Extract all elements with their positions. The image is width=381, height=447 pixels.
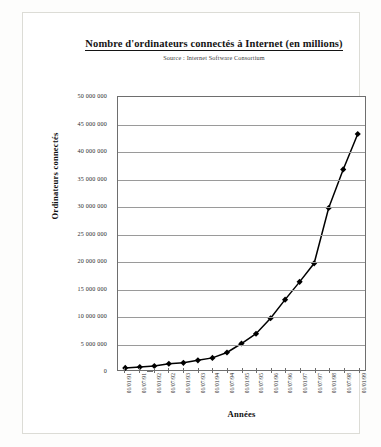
x-axis-title: Années [117,409,366,419]
y-tick-mark [147,371,153,372]
y-tick-label: 10 000 000 [78,313,107,319]
y-tick-label: 5 000 000 [81,341,107,347]
x-tick-label: 01/07/94 [229,373,235,393]
x-tick-label: 01/07/95 [258,373,264,393]
x-tick-label: 01/07/93 [200,373,206,393]
data-point-marker [195,357,201,363]
x-tick-label: 01/01/96 [273,373,279,393]
x-tick-mark [154,368,155,373]
x-tick-label: 01/01/91 [126,373,132,393]
gridline [118,235,365,236]
gridline [118,207,365,208]
scanned-page: Nombre d'ordinateurs connectés à Interne… [0,0,381,447]
y-tick-label: 50 000 000 [78,93,107,99]
x-tick-label: 01/01/95 [244,373,250,393]
data-point-marker [340,166,346,172]
y-tick-label: 15 000 000 [78,286,107,292]
data-point-marker [355,131,361,137]
x-tick-label: 01/01/93 [185,373,191,393]
figure-frame: Nombre d'ordinateurs connectés à Interne… [22,12,360,434]
x-tick-label: 01/07/92 [170,373,176,393]
page-title: Nombre d'ordinateurs connectés à Interne… [85,38,342,51]
gridline [118,317,365,318]
x-tick-mark [198,368,199,373]
data-point-marker [166,361,172,367]
y-tick-label: 0 [104,368,107,374]
gridline [118,125,365,126]
x-tick-mark [139,368,140,373]
x-tick-label: 01/07/97 [317,373,323,393]
data-point-marker [180,360,186,366]
x-tick-mark [285,368,286,373]
chart-source-subtitle: Source : Internet Software Consortium [45,54,381,61]
title-block: Nombre d'ordinateurs connectés à Interne… [45,33,381,61]
gridline [118,345,365,346]
y-tick-label: 40 000 000 [78,148,107,154]
series-line [125,134,357,368]
y-tick-label: 45 000 000 [78,121,107,127]
gridline [118,180,365,181]
x-tick-mark [300,368,301,373]
x-tick-mark [329,368,330,373]
y-tick-label: 35 000 000 [78,176,107,182]
x-axis-tick-labels: 01/01/9101/07/9101/01/9201/07/9201/01/93… [117,373,366,407]
x-tick-label: 01/01/97 [302,373,308,393]
x-tick-label: 01/07/98 [346,373,352,393]
y-axis-tick-labels: 50 000 00045 000 00040 000 00035 000 000… [59,96,113,371]
x-tick-label: 01/01/92 [156,373,162,393]
x-tick-mark [227,368,228,373]
x-tick-mark [242,368,243,373]
gridline [118,262,365,263]
x-tick-label: 01/01/98 [331,373,337,393]
x-tick-mark [359,368,360,373]
x-tick-mark [315,368,316,373]
x-tick-mark [271,368,272,373]
x-tick-label: 01/07/91 [141,373,147,393]
y-tick-label: 25 000 000 [78,231,107,237]
plot-area [117,96,366,371]
line-series [118,97,365,370]
y-tick-label: 20 000 000 [78,258,107,264]
data-point-marker [326,205,332,211]
x-tick-mark [124,368,125,373]
x-tick-mark [256,368,257,373]
y-tick-label: 30 000 000 [78,203,107,209]
x-tick-mark [212,368,213,373]
gridline [118,152,365,153]
data-point-marker [209,355,215,361]
gridline [118,290,365,291]
x-tick-label: 01/01/99 [361,373,367,393]
x-tick-mark [344,368,345,373]
x-tick-mark [183,368,184,373]
x-tick-label: 01/01/94 [214,373,220,393]
x-tick-label: 01/07/96 [287,373,293,393]
x-tick-mark [168,368,169,373]
